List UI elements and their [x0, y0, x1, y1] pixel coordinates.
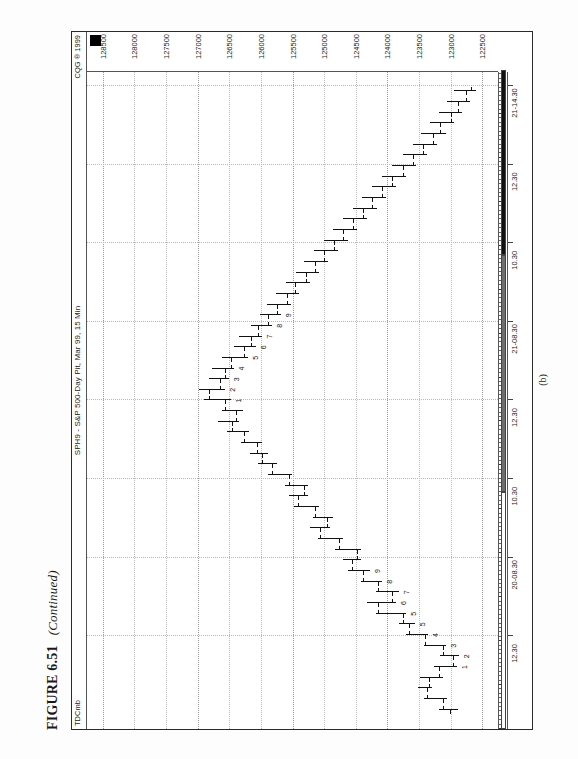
- time-tick-label: 12.30: [510, 644, 519, 663]
- close-tick: [232, 428, 233, 432]
- chart-title: SPH9 - S&P 500-Day Pit, Mar 99, 15 Min: [73, 305, 82, 455]
- open-tick: [231, 357, 232, 361]
- bar-annotation: 6: [259, 345, 266, 349]
- time-tick: [508, 163, 513, 164]
- bar-annotation: 5: [410, 611, 417, 615]
- open-tick: [277, 304, 278, 308]
- price-tick-label: 125000: [320, 34, 329, 59]
- price-tick-label: 123000: [446, 34, 455, 59]
- open-tick: [334, 240, 335, 244]
- price-plot-area[interactable]: 1234556789123456789: [87, 72, 498, 729]
- bar-annotation: 5: [252, 355, 259, 359]
- session-segment: [501, 70, 506, 255]
- ohlc-bar: [199, 388, 226, 389]
- open-tick: [378, 603, 379, 607]
- open-tick: [244, 432, 245, 436]
- open-tick: [357, 549, 358, 553]
- open-tick: [236, 411, 237, 415]
- price-tick-label: 127500: [162, 34, 171, 59]
- ohlc-bar: [399, 623, 415, 624]
- session-strip: [501, 72, 506, 729]
- session-segment: [501, 254, 506, 491]
- close-tick: [262, 460, 263, 464]
- close-tick: [320, 535, 321, 539]
- bar-annotation: 9: [285, 313, 292, 317]
- open-tick: [315, 261, 316, 265]
- time-tick-label: 21-08.30: [510, 324, 519, 354]
- time-tick: [508, 556, 513, 557]
- close-tick: [220, 385, 221, 389]
- open-tick: [363, 571, 364, 575]
- gridline-vertical: [87, 556, 498, 557]
- price-tick-label: 128500: [98, 34, 107, 59]
- price-tick-label: 124000: [383, 34, 392, 59]
- bar-annotation: 1: [460, 665, 467, 669]
- open-tick: [251, 336, 252, 340]
- price-tick-label: 122500: [478, 34, 487, 59]
- open-tick: [451, 112, 452, 116]
- session-segment: [501, 491, 506, 728]
- close-tick: [272, 471, 273, 475]
- open-tick: [343, 229, 344, 233]
- open-tick: [262, 453, 263, 457]
- gridline-vertical: [87, 399, 498, 400]
- open-tick: [315, 507, 316, 511]
- bar-annotation: 5: [419, 622, 426, 626]
- subfigure-label: (b): [537, 374, 548, 386]
- close-tick: [413, 161, 414, 165]
- open-tick: [440, 123, 441, 127]
- time-tick-label: 21-14.30: [510, 88, 519, 118]
- close-tick: [453, 663, 454, 667]
- close-tick: [451, 119, 452, 123]
- open-tick: [298, 496, 299, 500]
- open-tick: [429, 677, 430, 681]
- price-tick-label: 128000: [130, 34, 139, 59]
- page-canvas: FIGURE 6.51(Continued) TDCmb SPH9 - S&P …: [0, 0, 578, 759]
- figure-caption: FIGURE 6.51(Continued): [45, 570, 61, 730]
- close-tick: [225, 375, 226, 379]
- close-tick: [378, 609, 379, 613]
- close-tick: [209, 396, 210, 400]
- time-tick-label: 12.30: [510, 172, 519, 191]
- time-tick: [508, 85, 513, 86]
- bar-annotation: 3: [233, 377, 240, 381]
- close-tick: [315, 268, 316, 272]
- gridline-vertical: [87, 242, 498, 243]
- close-tick: [433, 140, 434, 144]
- open-tick: [427, 688, 428, 692]
- price-tick-label: 125500: [288, 34, 297, 59]
- open-tick: [306, 272, 307, 276]
- open-tick: [423, 144, 424, 148]
- price-tick-label: 126000: [256, 34, 265, 59]
- chart-frame: TDCmb SPH9 - S&P 500-Day Pit, Mar 99, 15…: [71, 31, 533, 730]
- close-tick: [458, 108, 459, 112]
- figure-continued: (Continued): [45, 570, 60, 635]
- open-tick: [378, 581, 379, 585]
- close-tick: [343, 236, 344, 240]
- close-tick: [378, 588, 379, 592]
- close-tick: [298, 503, 299, 507]
- rotated-figure: FIGURE 6.51(Continued) TDCmb SPH9 - S&P …: [39, 30, 539, 730]
- close-tick: [352, 567, 353, 571]
- close-tick: [425, 641, 426, 645]
- open-tick: [209, 389, 210, 393]
- open-tick: [289, 475, 290, 479]
- time-tick-label: 10.30: [510, 250, 519, 269]
- price-axis: 1285001280001275001270001265001260001255…: [87, 32, 498, 72]
- open-tick: [392, 592, 393, 596]
- close-tick: [277, 311, 278, 315]
- bar-annotation: 8: [276, 323, 283, 327]
- close-tick: [357, 556, 358, 560]
- ohlc-bar: [227, 431, 250, 432]
- close-tick: [251, 343, 252, 347]
- time-tick-label: 20-08.30: [510, 560, 519, 590]
- open-tick: [220, 379, 221, 383]
- study-tag: TDCmb: [73, 700, 82, 726]
- time-tick-label: 10.30: [510, 486, 519, 505]
- bar-annotation: 2: [229, 387, 236, 391]
- close-tick: [304, 492, 305, 496]
- bar-annotation: 7: [266, 334, 273, 338]
- open-tick: [324, 251, 325, 255]
- figure-number: FIGURE 6.51: [45, 645, 60, 730]
- time-axis: 12.3020-08.3010.3012.3021-08.3010.3012.3…: [507, 72, 534, 729]
